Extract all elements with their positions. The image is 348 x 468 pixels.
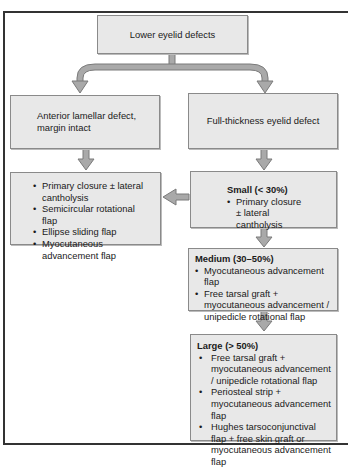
list-item: Semicircular rotational flap [33, 203, 152, 226]
list-item: Primary closure ± lateral cantholysis [33, 180, 152, 203]
list-item: Primary closure ± lateral cantholysis [227, 196, 306, 231]
large-defect-list: Free tarsal graft + myocutaneous advance… [197, 352, 332, 468]
large-defect-node: Large (> 50%) Free tarsal graft + myocut… [190, 334, 337, 441]
list-item: Periosteal strip + myocutaneous advancem… [197, 386, 332, 421]
root-label: Lower eyelid defects [130, 29, 215, 41]
list-item: Myocutaneous advancement flap [195, 265, 333, 288]
list-item: Free tarsal graft + myocutaneous advance… [197, 352, 332, 387]
medium-defect-node: Medium (30–50%) Myocutaneous advancement… [188, 248, 338, 311]
full-thickness-node: Full-thickness eyelid defect [188, 93, 338, 149]
root-node: Lower eyelid defects [97, 15, 248, 54]
anterior-lamellar-node: Anterior lamellar defect, margin intact [10, 95, 160, 149]
anterior-options-node: Primary closure ± lateral cantholysis Se… [10, 172, 161, 245]
full-thickness-label: Full-thickness eyelid defect [207, 115, 320, 127]
small-defect-title: Small (< 30%) [227, 184, 306, 196]
medium-defect-list: Myocutaneous advancement flap Free tarsa… [195, 265, 333, 323]
medium-defect-title: Medium (30–50%) [195, 253, 333, 265]
list-item: Myocutaneous advancement flap [33, 238, 152, 261]
list-item: Free tarsal graft + myocutaneous advance… [195, 288, 333, 323]
small-defect-list: Primary closure ± lateral cantholysis [227, 196, 306, 231]
anterior-options-list: Primary closure ± lateral cantholysis Se… [33, 180, 152, 261]
small-defect-node: Small (< 30%) Primary closure ± lateral … [190, 171, 337, 228]
list-item: Hughes tarsoconjunctival flap + free ski… [197, 421, 332, 467]
list-item: Ellipse sliding flap [33, 226, 152, 238]
anterior-lamellar-label: Anterior lamellar defect, margin intact [37, 110, 151, 133]
large-defect-title: Large (> 50%) [197, 340, 332, 352]
